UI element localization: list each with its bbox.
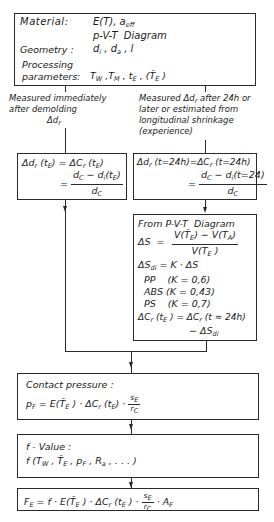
processing-label: Processing: [22, 59, 73, 70]
connector-left-long: [65, 200, 66, 352]
geometry-value: di , da , l: [93, 43, 133, 58]
final-c-line2: − ΔSdi: [189, 325, 218, 340]
material-pp: PP (K = 0,6): [144, 274, 210, 285]
material-label: Material:: [20, 16, 69, 27]
arrow-down-icon: [63, 206, 67, 212]
contact-pressure-box: Contact pressure : pF = E(T̄E ) · ΔCr (t…: [17, 373, 259, 420]
left-caption-1: Measured immediately: [9, 93, 106, 104]
connector-right-stub: [205, 86, 206, 92]
demolding-force-box: FE = f · E(T̄E ) · ΔCr (tE ) · sErC · AF: [17, 488, 259, 511]
input-parameters-box: Material: E(T), aeff p-V-T Diagram Geome…: [14, 13, 256, 86]
pvt-diagram-label: p-V-T Diagram: [93, 30, 167, 41]
material-abs: ABS (K = 0,43): [144, 286, 215, 297]
pvt-box: From P-V-T Diagram ΔS = V(T̄E) − V(TA)V(…: [133, 214, 257, 341]
right-formula-fraction: = dC − di(t=24)dC: [188, 169, 267, 200]
arrow-down-icon: [203, 207, 207, 213]
arrow-down-icon: [129, 362, 133, 368]
processing-value: TW ,TM , tE , (T̄E ): [90, 70, 166, 85]
right-caption-4: (experience): [139, 126, 193, 137]
material-ps: PS (K = 0,7): [144, 298, 211, 309]
connector-join: [65, 351, 207, 352]
demolding-force-formula: FE = f · E(T̄E ) · ΔCr (tE ) · sErC · AF: [24, 492, 173, 513]
delta-s-label: ΔS =: [138, 236, 165, 247]
left-formula-fraction: = dC − di(tE)dC: [60, 169, 123, 200]
connector-left-stub: [65, 86, 66, 92]
right-caption-3: longitudinal shrinkage: [139, 115, 234, 126]
arrow-down-icon: [129, 424, 133, 430]
material-value: E(T), aeff: [93, 16, 134, 31]
parameters-label: parameters:: [22, 71, 80, 82]
left-formula-box: Δdr (tE) = ΔCr (tE) = dC − di(tE)dC: [17, 153, 127, 200]
left-caption-2: after demolding: [9, 104, 77, 115]
contact-pressure-title: Contact pressure :: [26, 379, 114, 390]
f-value-box: f - Value : f (TW , T̄E , pF , Ra , . . …: [17, 434, 259, 478]
pvt-title: From P-V-T Diagram: [138, 218, 235, 229]
delta-sdi-formula: ΔSdi = K · ΔS: [138, 259, 198, 274]
connector-left-down: [65, 128, 66, 153]
left-caption-3: Δdr: [47, 115, 61, 129]
contact-pressure-formula: pF = E(T̄E ) · ΔCr (tE) · sErC: [26, 394, 140, 415]
right-caption-2: later or estimated from: [139, 104, 238, 115]
f-value-title: f - Value :: [26, 441, 71, 452]
f-value-formula: f (TW , T̄E , pF , Ra , . . . ): [26, 455, 137, 470]
delta-s-fraction: V(T̄E) − V(TA)V(TE ): [172, 229, 238, 260]
final-c-line1: ΔCr (tE ) = ΔCr (t ≈ 24h): [138, 312, 246, 326]
right-formula-box: Δdr (t=24h)=ΔCr (t=24h) = dC − di(t=24)d…: [133, 153, 257, 200]
connector-right-down: [205, 140, 206, 153]
geometry-label: Geometry :: [20, 44, 74, 55]
